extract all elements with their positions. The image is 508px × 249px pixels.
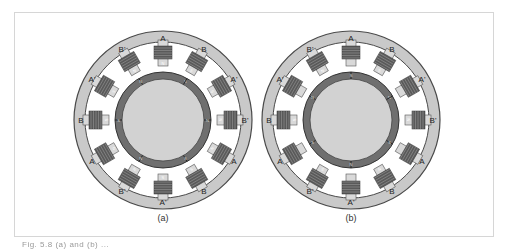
pole-label: A'	[231, 75, 238, 84]
pole-tip-label: N	[162, 61, 165, 66]
motor-diagram-a: NASBSA'NB'NASBSA'NB'NASBSA'NB'SNSNSN	[74, 31, 252, 209]
rotor-pole-label: N	[139, 79, 142, 84]
rotor-pole-label: S	[350, 73, 353, 78]
pole-label: A'	[419, 75, 426, 84]
rotor-pole-label: N	[350, 162, 353, 167]
pole-label: A'	[348, 198, 355, 207]
pole-tip-label: S	[161, 175, 164, 180]
pole-label: A	[277, 157, 283, 166]
pole-label: A	[231, 157, 237, 166]
panel-label-b: (b)	[336, 213, 366, 223]
pole-label: B	[78, 116, 83, 125]
pole-label: A	[419, 157, 425, 166]
rotor-pole-label: S	[184, 156, 187, 161]
pole-label: B'	[242, 116, 249, 125]
pole-label: A	[160, 34, 166, 43]
pole-label: B'	[307, 187, 314, 196]
rotor-pole-label: S	[311, 140, 314, 145]
pole-label: A'	[89, 75, 96, 84]
pole-tip-label: S	[292, 118, 297, 121]
pole-label: B'	[119, 187, 126, 196]
pole-label: A	[348, 34, 354, 43]
pole-label: B'	[307, 45, 314, 54]
pole-label: B	[389, 187, 394, 196]
rotor-pole-label: S	[117, 118, 120, 123]
rotor-core	[310, 79, 392, 161]
motor-diagram-b: ASBA'NB'ANBA'SB'ASBA'NB'NSNSNS	[262, 31, 440, 209]
pole-label: B'	[119, 45, 126, 54]
pole-label: B	[201, 45, 206, 54]
figure-caption: Fig. 5.8 (a) and (b) ...	[22, 240, 109, 249]
pole-label: B	[389, 45, 394, 54]
rotor-pole-label: N	[139, 156, 142, 161]
pole-tip-label: N	[218, 119, 223, 122]
pole-label: B	[266, 116, 271, 125]
rotor-pole-label: S	[388, 140, 391, 145]
rotor-pole-label: N	[311, 95, 314, 100]
pole-label: B	[201, 187, 206, 196]
pole-tip-label: S	[104, 118, 109, 121]
pole-label: A'	[160, 198, 167, 207]
pole-label: A	[89, 157, 95, 166]
rotor-core	[122, 79, 204, 161]
pole-label: B'	[430, 116, 437, 125]
panel-label-a: (a)	[148, 213, 178, 223]
pole-tip-label: N	[406, 119, 411, 122]
pole-label: A'	[277, 75, 284, 84]
rotor-pole-label: N	[206, 118, 209, 123]
